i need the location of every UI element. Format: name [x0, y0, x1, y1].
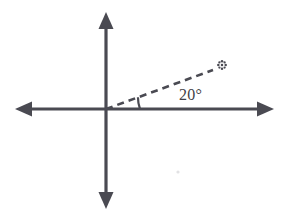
y-axis-top-arrowhead	[99, 12, 114, 29]
angle-measure-label: 20°	[179, 87, 202, 103]
x-axis-left-arrowhead	[15, 102, 32, 117]
x-axis-right-arrowhead	[257, 102, 274, 117]
scan-speck	[176, 170, 179, 173]
angle-diagram-figure: 20°	[0, 0, 290, 218]
angle-arc-mark	[138, 97, 140, 109]
y-axis-bottom-arrowhead	[99, 192, 114, 209]
star-marker-icon	[217, 60, 227, 70]
diagram-canvas	[0, 0, 290, 218]
